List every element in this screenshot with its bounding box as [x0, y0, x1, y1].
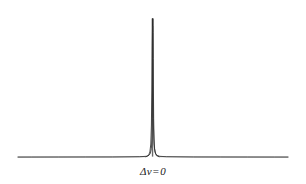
detuning-value: 0 — [160, 165, 166, 177]
delta-symbol: Δ — [140, 165, 147, 177]
plot-canvas — [0, 0, 306, 184]
equals-symbol: = — [152, 165, 160, 177]
spectral-line-figure: Δν=0 — [0, 0, 306, 184]
axis-annotation-detuning: Δν=0 — [0, 165, 306, 177]
